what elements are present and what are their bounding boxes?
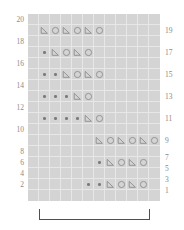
stitch-cell <box>116 14 127 25</box>
stitch-cell <box>83 168 94 179</box>
stitch-cell <box>39 102 50 113</box>
stitch-cell <box>28 179 39 190</box>
stitch-cell <box>83 135 94 146</box>
stitch-cell <box>138 58 149 69</box>
stitch-cell <box>116 25 127 36</box>
stitch-cell <box>28 80 39 91</box>
stitch-cell <box>28 102 39 113</box>
stitch-cell <box>105 124 116 135</box>
row-label-right-7: 7 <box>165 152 181 163</box>
stitch-cell <box>149 47 160 58</box>
stitch-cell <box>61 91 72 102</box>
stitch-cell <box>39 190 50 201</box>
stitch-cell <box>127 91 138 102</box>
stitch-cell <box>72 146 83 157</box>
stitch-cell <box>50 25 61 36</box>
stitch-cell <box>116 80 127 91</box>
yarnover-circle-icon <box>94 69 105 80</box>
stitch-cell <box>116 157 127 168</box>
stitch-cell <box>105 58 116 69</box>
yarnover-circle-icon <box>94 113 105 124</box>
stitch-cell <box>61 102 72 113</box>
stitch-cell <box>116 146 127 157</box>
decrease-triangle-icon <box>83 113 94 124</box>
stitch-cell <box>105 102 116 113</box>
stitch-cell <box>39 36 50 47</box>
stitch-cell <box>127 25 138 36</box>
stitch-cell <box>72 69 83 80</box>
stitch-cell <box>72 157 83 168</box>
stitch-cell <box>105 14 116 25</box>
yarnover-circle-icon <box>83 47 94 58</box>
yarnover-circle-icon <box>94 25 105 36</box>
stitch-cell <box>83 36 94 47</box>
stitch-cell <box>105 113 116 124</box>
stitch-cell <box>83 157 94 168</box>
stitch-cell <box>50 58 61 69</box>
stitch-cell <box>127 135 138 146</box>
stitch-cell <box>72 14 83 25</box>
stitch-cell <box>83 91 94 102</box>
stitch-cell <box>39 47 50 58</box>
stitch-cell <box>28 190 39 201</box>
stitch-cell <box>127 80 138 91</box>
stitch-cell <box>105 36 116 47</box>
purl-dot-icon <box>76 117 79 120</box>
stitch-cell <box>149 135 160 146</box>
stitch-cell <box>138 36 149 47</box>
row-label-left-20: 20 <box>6 14 24 25</box>
bracket-right-tick <box>149 209 150 220</box>
row-label-right-11: 11 <box>165 113 181 124</box>
stitch-cell <box>116 113 127 124</box>
stitch-cell <box>50 36 61 47</box>
stitch-cell <box>28 91 39 102</box>
stitch-cell <box>138 168 149 179</box>
stitch-cell <box>28 168 39 179</box>
stitch-cell <box>149 146 160 157</box>
stitch-cell <box>83 25 94 36</box>
stitch-cell <box>72 102 83 113</box>
decrease-triangle-icon <box>116 135 127 146</box>
stitch-cell <box>94 157 105 168</box>
row-label-left-10: 10 <box>6 124 24 135</box>
yarnover-circle-icon <box>83 91 94 102</box>
purl-dot-icon <box>65 95 68 98</box>
stitch-cell <box>50 113 61 124</box>
stitch-cell <box>149 91 160 102</box>
stitch-cell <box>149 190 160 201</box>
stitch-cell <box>94 47 105 58</box>
stitch-cell <box>28 36 39 47</box>
purl-dot-icon <box>54 73 57 76</box>
stitch-cell <box>149 36 160 47</box>
stitch-cell <box>39 146 50 157</box>
stitch-cell <box>127 47 138 58</box>
stitch-cell <box>116 102 127 113</box>
stitch-cell <box>72 179 83 190</box>
stitch-cell <box>61 168 72 179</box>
stitch-cell <box>61 146 72 157</box>
stitch-cell <box>50 179 61 190</box>
stitch-cell <box>50 47 61 58</box>
stitch-cell <box>50 80 61 91</box>
stitch-cell <box>83 179 94 190</box>
stitch-cell <box>39 135 50 146</box>
yarnover-circle-icon <box>116 179 127 190</box>
stitch-cell <box>39 91 50 102</box>
stitch-cell <box>83 47 94 58</box>
repeat-bracket <box>39 209 150 221</box>
stitch-cell <box>72 58 83 69</box>
stitch-cell <box>61 14 72 25</box>
purl-dot-icon <box>98 161 101 164</box>
stitch-cell <box>149 157 160 168</box>
knitting-chart: 20 18 16 14 12 10 8 6 4 2 19 17 15 13 11… <box>0 0 184 230</box>
row-label-left-6: 6 <box>6 157 24 168</box>
decrease-triangle-icon <box>72 91 83 102</box>
stitch-cell <box>116 179 127 190</box>
stitch-cell <box>83 102 94 113</box>
decrease-triangle-icon <box>61 69 72 80</box>
row-label-right-1: 1 <box>165 185 181 196</box>
stitch-cell <box>28 25 39 36</box>
stitch-cell <box>94 102 105 113</box>
decrease-triangle-icon <box>94 135 105 146</box>
stitch-cell <box>61 135 72 146</box>
